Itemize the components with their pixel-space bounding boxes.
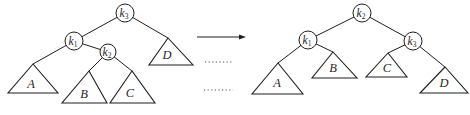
right-tree: k2 k1 k3 A B C D xyxy=(252,4,468,94)
left-tree-edges xyxy=(33,13,168,71)
left-subtree-a-label: A xyxy=(26,77,35,91)
transformation-marks xyxy=(197,35,246,90)
dotted-separator-lines xyxy=(204,62,233,90)
left-subtree-b-label: B xyxy=(80,87,88,101)
rotation-arrow-icon xyxy=(197,35,246,40)
tree-rotation-svg: k3 k1 k2 A B C D xyxy=(0,0,470,115)
right-subtree-c-label: C xyxy=(383,61,392,75)
right-subtree-b-label: B xyxy=(329,61,337,75)
right-subtree-d-label: D xyxy=(438,76,448,90)
left-subtree-c-label: C xyxy=(126,86,135,100)
right-subtree-a-label: A xyxy=(272,76,281,90)
tree-rotation-figure: k3 k1 k2 A B C D xyxy=(0,0,470,115)
left-subtree-d-label: D xyxy=(161,48,171,62)
rotation-arrow-head xyxy=(239,35,246,40)
left-tree: k3 k1 k2 A B C D xyxy=(8,4,193,103)
